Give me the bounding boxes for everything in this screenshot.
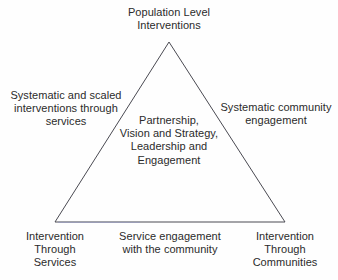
label-intervention-through-services: Intervention Through Services [5, 230, 105, 270]
label-partnership-vision-strategy-leadership-engagement: Partnership, Vision and Strategy, Leader… [110, 114, 228, 167]
label-intervention-through-communities: Intervention Through Communities [235, 230, 335, 270]
label-population-level-interventions: Population Level Interventions [109, 6, 229, 32]
diagram-canvas: Population Level Interventions Systemati… [0, 0, 338, 280]
label-systematic-community-engagement: Systematic community engagement [214, 101, 338, 127]
label-service-engagement-with-the-community: Service engagement with the community [111, 230, 229, 256]
